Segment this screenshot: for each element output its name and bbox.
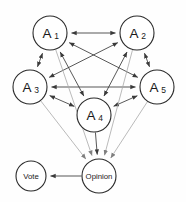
node-label-a4: A <box>86 108 95 123</box>
agent-opinion-graph: A1A2A3A4A5OpinionVote <box>0 0 186 202</box>
node-subscript-a1: 1 <box>54 31 59 41</box>
edge-a4-opinion <box>95 132 97 154</box>
node-layer: A1A2A3A4A5OpinionVote <box>13 16 174 193</box>
node-subscript-a2: 2 <box>141 31 146 41</box>
node-label-a1: A <box>42 26 51 41</box>
node-a3[interactable]: A3 <box>13 70 47 104</box>
node-opinion[interactable]: Opinion <box>82 159 116 193</box>
node-label-a2: A <box>129 26 138 41</box>
node-vote[interactable]: Vote <box>16 161 46 191</box>
node-subscript-a4: 4 <box>98 113 103 123</box>
node-label-vote: Vote <box>23 172 39 181</box>
edge-a1-a5 <box>69 43 138 78</box>
node-a4[interactable]: A4 <box>77 98 111 132</box>
node-label-a5: A <box>149 80 158 95</box>
node-a1[interactable]: A1 <box>33 16 67 50</box>
edge-a1-a3 <box>37 53 42 67</box>
node-a5[interactable]: A5 <box>140 70 174 104</box>
node-subscript-a5: 5 <box>161 85 166 95</box>
edge-a2-a5 <box>144 53 149 67</box>
node-label-opinion: Opinion <box>86 172 113 181</box>
edge-a2-opinion <box>105 50 133 155</box>
edge-a2-a4 <box>104 52 127 96</box>
edge-a4-a5 <box>114 96 138 107</box>
diagram-canvas: A1A2A3A4A5OpinionVote <box>0 0 186 202</box>
edge-a3-a4 <box>50 96 75 107</box>
node-label-a3: A <box>22 80 31 95</box>
node-a2[interactable]: A2 <box>120 16 154 50</box>
node-subscript-a3: 3 <box>34 85 39 95</box>
